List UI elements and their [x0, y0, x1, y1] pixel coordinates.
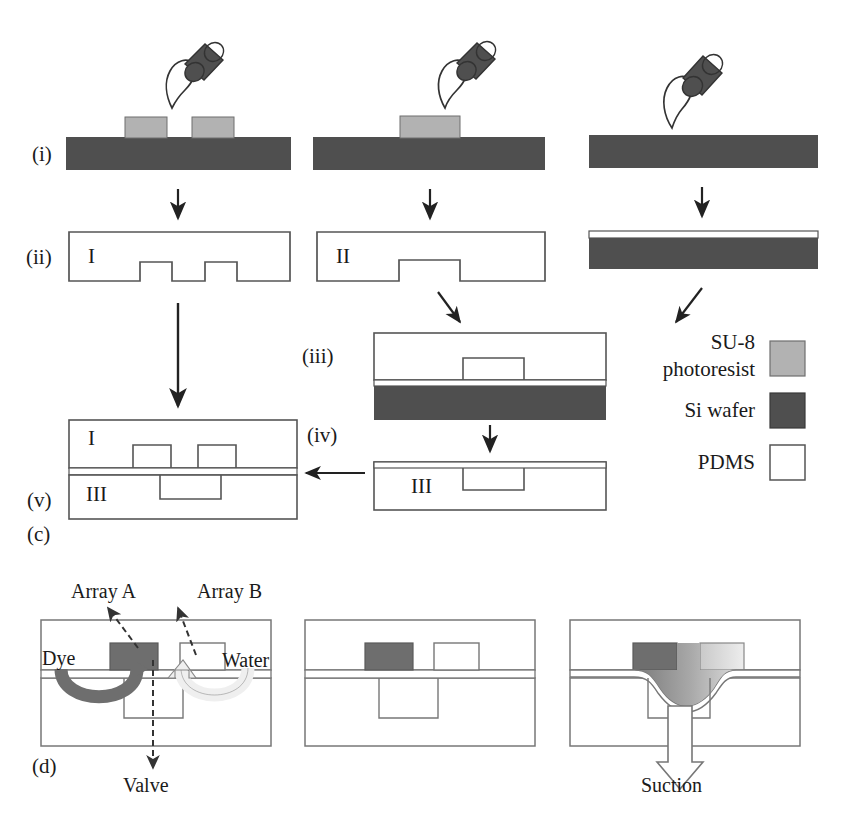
arrow-ii-to-iii-from-membrane: [676, 288, 702, 322]
mold-id-three: III: [411, 476, 432, 497]
step-label-i: (i): [32, 144, 52, 165]
pdms-thin-layer: [589, 231, 818, 238]
legend-label-su8-line1: SU-8: [600, 332, 755, 353]
annotation-array-b: Array B: [197, 581, 262, 601]
chamber-array-a: [633, 643, 677, 670]
annotation-valve: Valve: [123, 775, 169, 795]
panel-d-state-sealed: [305, 620, 535, 746]
mold-id-one: I: [88, 246, 95, 267]
pdms-mold-two: [317, 232, 545, 281]
legend-label-pdms: PDMS: [600, 452, 755, 473]
panel-d-state-actuated: [570, 620, 800, 789]
panel-label-d: (d): [32, 756, 57, 777]
pdms-pour-icon: [438, 38, 499, 108]
pdms-top-layer: [305, 620, 535, 670]
assembly-top-id: I: [88, 428, 95, 449]
assembly-bottom-id: III: [86, 484, 107, 505]
membrane-layer: [41, 670, 271, 678]
si-wafer-block: [589, 135, 818, 168]
step-i-column-left: [66, 39, 291, 170]
su8-feature: [400, 116, 460, 138]
legend-label-su8-line2: photoresist: [600, 359, 755, 380]
chamber-array-a: [110, 643, 158, 670]
pdms-mold-one: [69, 232, 290, 281]
step-i-column-middle: [313, 38, 545, 170]
pdms-part-three: [374, 462, 606, 510]
pdms-mold-two-body: [374, 333, 606, 380]
step-iii-structure: [374, 333, 606, 420]
chamber-array-a: [365, 643, 413, 670]
si-wafer-block: [589, 238, 818, 269]
su8-feature: [192, 117, 234, 138]
pdms-membrane-on-wafer: [589, 231, 818, 269]
legend-label-si-wafer: Si wafer: [600, 400, 755, 421]
legend-swatch-si-wafer: [770, 393, 805, 428]
si-wafer-block: [374, 386, 606, 420]
su8-feature: [125, 117, 167, 138]
step-label-iii: (iii): [302, 346, 334, 367]
pdms-membrane-layer: [374, 462, 606, 468]
legend-swatch-pdms: [770, 445, 805, 480]
si-wafer-block: [66, 137, 291, 170]
pdms-thin-layer: [374, 380, 606, 386]
step-label-ii: (ii): [26, 247, 52, 268]
annotation-water: Water: [222, 650, 269, 670]
panel-label-c: (c): [27, 524, 50, 545]
chamber-array-b: [434, 643, 479, 670]
figure-root: (i) (ii) (iii) (iv) (v) I II III I III (…: [0, 0, 842, 834]
annotation-array-a: Array A: [71, 581, 136, 601]
step-label-v: (v): [27, 490, 52, 511]
legend-swatch-su8: [770, 341, 805, 376]
chamber-array-b: [700, 643, 744, 670]
step-label-iv: (iv): [307, 425, 337, 446]
annotation-suction: Suction: [641, 775, 702, 795]
pdms-layer-one: [69, 420, 297, 468]
pdms-membrane-layer: [69, 468, 297, 475]
pdms-pour-icon: [166, 39, 227, 108]
annotation-dye: Dye: [42, 648, 75, 668]
step-i-column-right: [589, 50, 818, 168]
step-iv-structure: [374, 462, 606, 510]
mold-id-two: II: [336, 246, 350, 267]
si-wafer-block: [313, 137, 545, 170]
membrane-layer: [305, 670, 535, 678]
panel-d-state-loading: [41, 608, 271, 768]
pdms-bottom-layer: [305, 678, 535, 746]
pdms-pour-icon: [664, 50, 727, 128]
arrow-ii-to-iii-from-mold-two: [438, 292, 460, 322]
